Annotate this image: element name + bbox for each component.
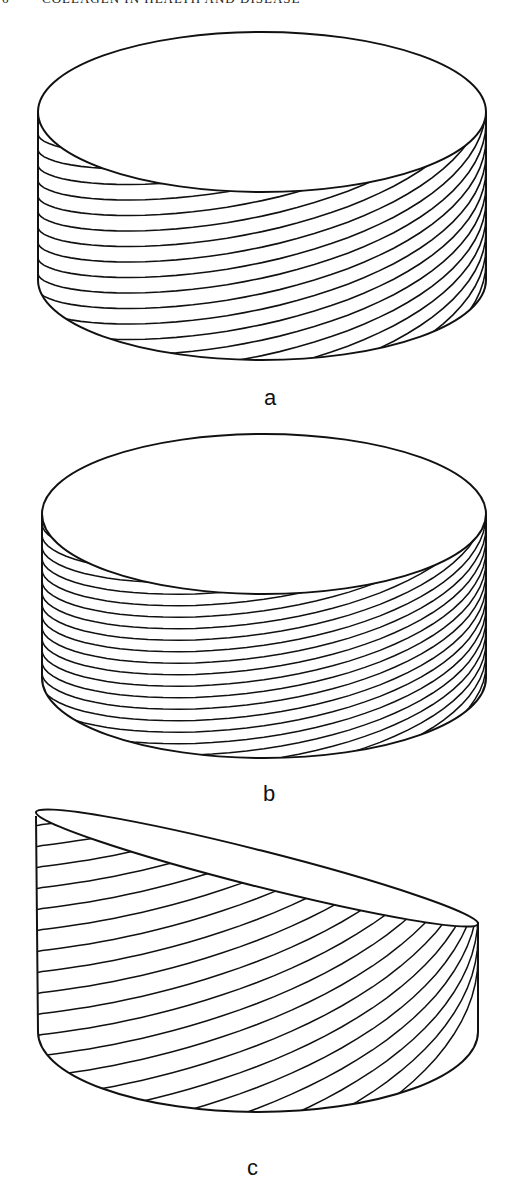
- cylinder-a-drawing: [0, 0, 512, 420]
- fibre-line: [38, 185, 486, 355]
- panel-label-c: c: [247, 1155, 258, 1181]
- fibre-line: [38, 200, 486, 370]
- fibre-line: [36, 958, 478, 1188]
- figure-panel-b: b: [0, 420, 512, 810]
- fibre-line: [38, 231, 486, 401]
- fibre-line: [36, 937, 478, 1188]
- panel-label-a: a: [264, 385, 276, 411]
- fibre-line: [38, 262, 486, 420]
- fibre-line: [42, 630, 486, 767]
- fibre-line: [42, 653, 486, 790]
- cylinder-c-drawing: [0, 800, 512, 1188]
- cylinder-b-drawing: [0, 420, 512, 810]
- figure-panel-a: a: [0, 0, 512, 420]
- figure-panel-c: c: [0, 800, 512, 1188]
- fibre-line: [36, 800, 478, 805]
- fibre-line: [38, 278, 486, 420]
- fibre-line: [38, 247, 486, 417]
- fibre-line: [38, 169, 486, 339]
